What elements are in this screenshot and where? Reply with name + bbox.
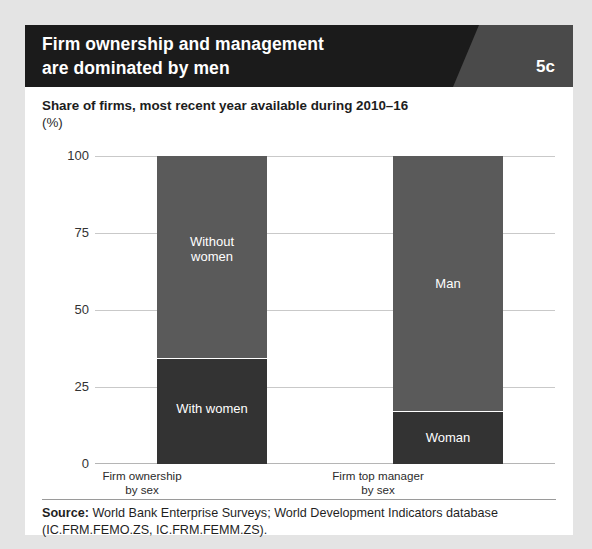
source-label: Source: <box>42 506 89 520</box>
plot-area: 100 75 50 25 0 Without women With women <box>25 25 573 485</box>
source-note: Source: World Bank Enterprise Surveys; W… <box>42 505 562 538</box>
y-tick-50: 50 <box>45 302 89 317</box>
x-tick-firm-top-manager: Firm top manager by sex <box>278 469 478 496</box>
y-axis-ticks: 100 75 50 25 0 <box>39 156 89 464</box>
source-text: World Bank Enterprise Surveys; World Dev… <box>42 506 498 537</box>
segment-woman[interactable]: Woman <box>393 412 503 464</box>
source-divider <box>42 499 556 500</box>
segment-label-man: Man <box>393 276 503 291</box>
figure-panel: Firm ownership and management are domina… <box>25 25 573 535</box>
segment-without-women[interactable]: Without women <box>157 156 267 359</box>
y-tick-75: 75 <box>45 225 89 240</box>
segment-label-with-women: With women <box>157 401 267 416</box>
bar-firm-ownership[interactable]: Without women With women <box>157 156 267 464</box>
bar-firm-top-manager[interactable]: Man Woman <box>393 156 503 464</box>
segment-label-woman: Woman <box>393 430 503 445</box>
x-tick-firm-ownership: Firm ownership by sex <box>42 469 242 496</box>
segment-with-women[interactable]: With women <box>157 359 267 464</box>
gridlines-and-bars: Without women With women Man Woman <box>95 156 555 464</box>
segment-man[interactable]: Man <box>393 156 503 412</box>
y-tick-25: 25 <box>45 379 89 394</box>
segment-label-without-women: Without women <box>157 234 267 264</box>
y-tick-100: 100 <box>45 148 89 163</box>
